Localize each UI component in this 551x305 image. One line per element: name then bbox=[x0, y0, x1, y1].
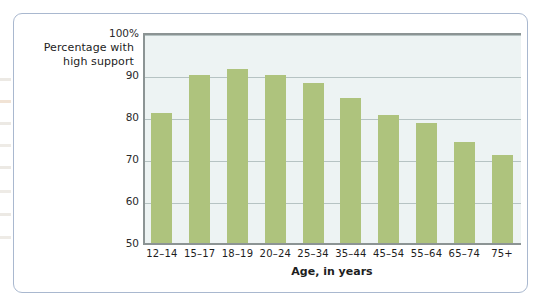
bar[interactable] bbox=[227, 69, 248, 243]
y-axis-tick-label: 90 bbox=[99, 69, 139, 81]
y-axis-tick-labels: 100%9080706050 bbox=[95, 33, 139, 243]
bar[interactable] bbox=[378, 115, 399, 243]
bar[interactable] bbox=[265, 75, 286, 243]
bar[interactable] bbox=[416, 123, 437, 243]
x-axis-title: Age, in years bbox=[143, 265, 521, 278]
bar[interactable] bbox=[189, 75, 210, 243]
scan-artifact-left bbox=[0, 70, 11, 270]
x-axis-tick-label: 20–24 bbox=[260, 248, 291, 259]
bar[interactable] bbox=[151, 113, 172, 243]
figure-container: Percentage with high support 100%9080706… bbox=[0, 0, 551, 305]
x-axis-tick-label: 65–74 bbox=[449, 248, 480, 259]
x-axis-tick-label: 75+ bbox=[491, 248, 513, 259]
y-axis-tick-label: 80 bbox=[99, 111, 139, 123]
y-axis-tick-label: 70 bbox=[99, 153, 139, 165]
bar[interactable] bbox=[340, 98, 361, 243]
x-axis-line bbox=[143, 243, 521, 245]
x-axis-tick-label: 12–14 bbox=[146, 248, 177, 259]
bar[interactable] bbox=[454, 142, 475, 243]
bar[interactable] bbox=[303, 83, 324, 243]
y-axis-tick-label: 60 bbox=[99, 195, 139, 207]
x-axis-tick-label: 55–64 bbox=[411, 248, 442, 259]
x-axis-tick-label: 35–44 bbox=[335, 248, 366, 259]
x-axis-tick-label: 15–17 bbox=[184, 248, 215, 259]
bar-series bbox=[143, 33, 521, 243]
x-axis-tick-label: 18–19 bbox=[222, 248, 253, 259]
x-axis-tick-label: 25–34 bbox=[297, 248, 328, 259]
bar[interactable] bbox=[492, 155, 513, 243]
x-axis-tick-label: 45–54 bbox=[373, 248, 404, 259]
y-axis-tick-label: 100% bbox=[99, 27, 139, 39]
y-axis-tick-label: 50 bbox=[99, 237, 139, 249]
